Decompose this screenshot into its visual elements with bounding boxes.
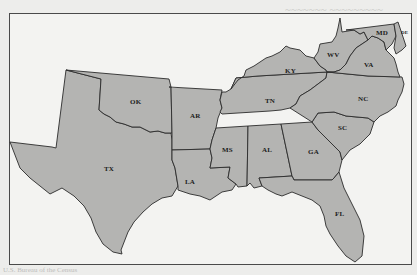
state-label-md: MD	[376, 29, 388, 37]
state-label-ga: GA	[308, 148, 319, 156]
state-label-ky: KY	[285, 67, 296, 75]
south-states-map	[0, 0, 417, 275]
state-label-al: AL	[262, 146, 272, 154]
state-label-wv: WV	[327, 51, 339, 59]
state-de	[394, 22, 406, 54]
state-label-tn: TN	[265, 97, 275, 105]
state-label-ar: AR	[190, 112, 201, 120]
state-label-fl: FL	[335, 210, 344, 218]
state-fl	[259, 172, 364, 262]
state-label-ok: OK	[130, 98, 141, 106]
map-caption: U.S. Bureau of the Census	[3, 266, 77, 274]
state-label-va: VA	[364, 61, 374, 69]
state-label-ms: MS	[222, 146, 233, 154]
state-label-de: DE	[401, 30, 408, 35]
state-label-la: LA	[185, 178, 195, 186]
state-label-sc: SC	[338, 124, 347, 132]
state-label-nc: NC	[358, 95, 369, 103]
state-label-tx: TX	[104, 165, 114, 173]
